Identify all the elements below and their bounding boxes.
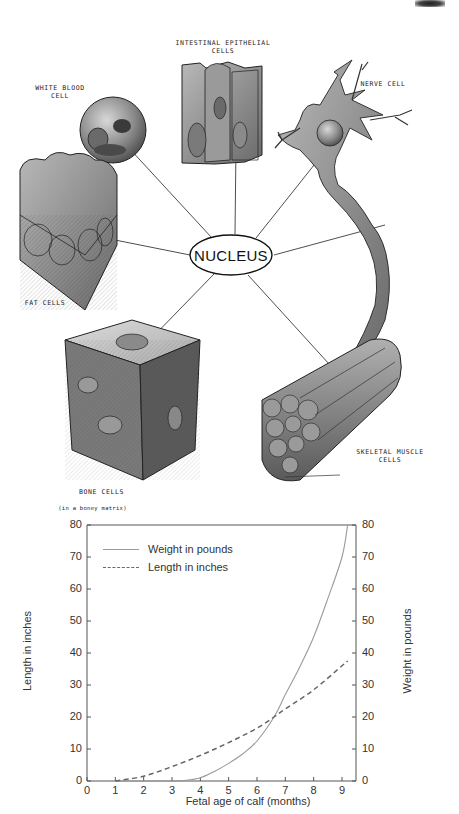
y-tick-left: 50 bbox=[60, 614, 82, 626]
solid-line-swatch-icon bbox=[103, 549, 139, 550]
y-tick-right: 50 bbox=[362, 614, 384, 626]
y-axis-left-title: Length in inches bbox=[21, 601, 33, 701]
y-tick-left: 40 bbox=[60, 646, 82, 658]
y-axis-right-title: Weight in pounds bbox=[401, 601, 413, 701]
y-tick-left: 30 bbox=[60, 678, 82, 690]
y-tick-left: 10 bbox=[60, 742, 82, 754]
legend-item-length: Length in inches bbox=[103, 558, 233, 576]
y-tick-left: 70 bbox=[60, 550, 82, 562]
legend-weight-label: Weight in pounds bbox=[148, 543, 233, 555]
y-tick-right: 0 bbox=[362, 774, 384, 786]
x-axis-title: Fetal age of calf (months) bbox=[186, 795, 311, 807]
x-tick: 3 bbox=[164, 784, 180, 796]
legend-length-label: Length in inches bbox=[148, 561, 228, 573]
y-tick-right: 60 bbox=[362, 582, 384, 594]
y-tick-right: 70 bbox=[362, 550, 384, 562]
y-tick-right: 40 bbox=[362, 646, 384, 658]
length-line bbox=[115, 661, 347, 781]
legend-item-weight: Weight in pounds bbox=[103, 540, 233, 558]
y-tick-right: 80 bbox=[362, 518, 384, 530]
chart-legend: Weight in pounds Length in inches bbox=[103, 540, 233, 576]
x-tick: 2 bbox=[136, 784, 152, 796]
y-tick-right: 20 bbox=[362, 710, 384, 722]
y-tick-left: 60 bbox=[60, 582, 82, 594]
y-tick-left: 80 bbox=[60, 518, 82, 530]
y-tick-left: 20 bbox=[60, 710, 82, 722]
x-tick: 1 bbox=[107, 784, 123, 796]
y-tick-right: 10 bbox=[362, 742, 384, 754]
y-tick-right: 30 bbox=[362, 678, 384, 690]
dashed-line-swatch-icon bbox=[103, 567, 139, 568]
x-tick: 0 bbox=[79, 784, 95, 796]
chart-plot-area bbox=[0, 0, 459, 814]
x-tick: 9 bbox=[334, 784, 350, 796]
